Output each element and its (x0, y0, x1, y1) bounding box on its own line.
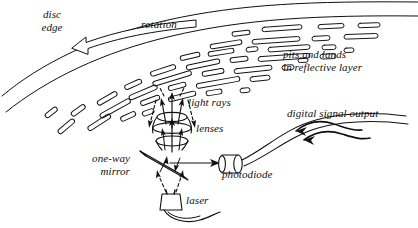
laser-body (160, 190, 182, 210)
rotation-arrow (72, 20, 196, 54)
label-light-rays: light rays (188, 96, 231, 109)
label-rotation: rotation (141, 18, 177, 31)
lens-stack (152, 112, 191, 152)
label-pits-and-lands: pits and lands in reflective layer (283, 48, 362, 73)
signal-arrow (296, 122, 370, 145)
label-lenses: lenses (196, 122, 223, 135)
label-laser: laser (186, 194, 209, 207)
label-one-way-mirror: one-way mirror (52, 152, 130, 177)
label-disc-edge: disc edge (24, 8, 80, 33)
optical-disc-diagram: disc edge rotation pits and lands in ref… (0, 0, 418, 228)
laser-wire (164, 210, 220, 222)
label-digital-signal-output: digital signal output (287, 107, 378, 120)
label-photodiode: photodiode (222, 168, 273, 181)
